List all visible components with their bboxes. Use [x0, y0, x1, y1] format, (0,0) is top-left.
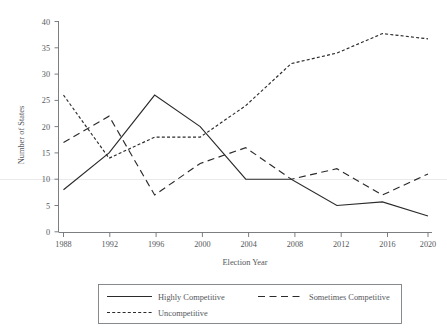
y-tick-label-5: 5: [46, 202, 50, 211]
y-tick-label-35: 35: [42, 44, 50, 53]
x-tick-label-2000: 2000: [194, 240, 210, 249]
x-tick-label-2004: 2004: [240, 240, 256, 249]
chart-figure: 40 35 30 25 20 15 10 5 0 1988 1992 1996: [0, 0, 447, 333]
y-tick-label-15: 15: [42, 149, 50, 158]
x-tick-label-1992: 1992: [102, 240, 118, 249]
x-tick-label-2008: 2008: [287, 240, 303, 249]
y-axis-title: Number of States: [17, 106, 26, 165]
legend-label-highly-competitive: Highly Competitive: [158, 293, 225, 302]
x-tick-label-2020: 2020: [420, 240, 436, 249]
chart-background: [0, 0, 447, 333]
y-tick-label-0: 0: [46, 228, 50, 237]
y-tick-label-10: 10: [42, 175, 50, 184]
legend-label-sometimes-competitive: Sometimes Competitive: [309, 293, 390, 302]
y-tick-label-30: 30: [42, 70, 50, 79]
y-tick-label-20: 20: [42, 123, 50, 132]
x-tick-label-1996: 1996: [148, 240, 164, 249]
line-chart: 40 35 30 25 20 15 10 5 0 1988 1992 1996: [0, 0, 447, 333]
y-tick-label-40: 40: [42, 18, 50, 27]
x-tick-label-1988: 1988: [55, 240, 71, 249]
x-axis-title: Election Year: [222, 258, 267, 267]
legend-label-uncompetitive: Uncompetitive: [158, 309, 208, 318]
x-tick-label-2016: 2016: [379, 240, 395, 249]
x-axis-tick-labels: 1988 1992 1996 2000 2004 2008 2012 2016 …: [55, 240, 436, 249]
x-tick-label-2012: 2012: [333, 240, 349, 249]
y-tick-label-25: 25: [42, 96, 50, 105]
